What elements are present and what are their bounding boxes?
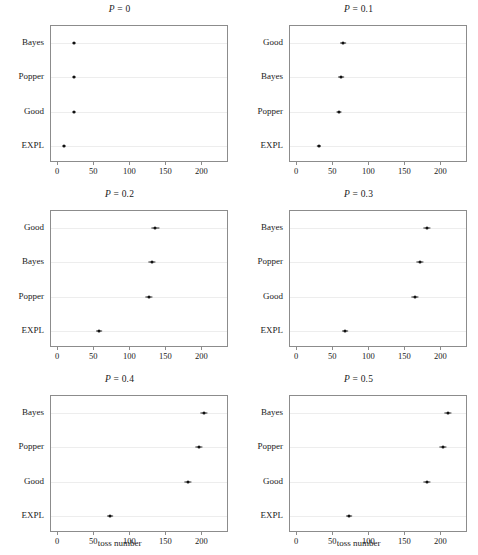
y-axis-labels: BayesPopperGoodEXPL — [239, 395, 289, 532]
y-axis-tick-label: Popper — [19, 291, 51, 301]
gridline — [51, 516, 227, 517]
gridline — [290, 43, 466, 44]
y-axis-tick-label: EXPL — [22, 325, 51, 335]
y-axis-tick-label: Popper — [19, 441, 51, 451]
x-axis-tick — [57, 347, 58, 350]
x-axis-tick — [368, 162, 369, 165]
point-marker — [425, 480, 428, 483]
y-axis-tick-label: EXPL — [261, 510, 290, 520]
panel-title-value: 0.3 — [361, 189, 373, 199]
x-axis-tick-label: 50 — [328, 166, 337, 176]
x-axis-tick — [93, 532, 94, 535]
gridline — [51, 146, 227, 147]
panel-title-equals: = — [350, 374, 361, 384]
panel-title-value: 0 — [125, 4, 130, 14]
panel-title-value: 0.2 — [122, 189, 134, 199]
point-marker — [317, 144, 320, 147]
chart-panel: P = 0.3BayesPopperGoodEXPL050100150200 — [239, 185, 478, 370]
gridline — [51, 43, 227, 44]
x-axis-tick — [57, 532, 58, 535]
x-axis-tick-label: 0 — [294, 166, 298, 176]
x-axis-tick — [165, 347, 166, 350]
point-marker — [418, 261, 421, 264]
x-axis-ticks: 050100150200 — [50, 162, 228, 186]
gridline — [290, 516, 466, 517]
x-axis-tick-label: 50 — [328, 351, 337, 361]
point-marker — [109, 514, 112, 517]
y-axis-tick-label: Popper — [258, 441, 290, 451]
x-axis-ticks: 050100150200 — [289, 347, 467, 371]
panel-title-equals: = — [350, 189, 361, 199]
plot-frame — [50, 25, 228, 162]
point-marker — [73, 42, 76, 45]
x-axis-tick-label: 50 — [89, 166, 98, 176]
chart-panel: P = 0.4BayesPopperGoodEXPL050100150200to… — [0, 370, 239, 555]
point-marker — [186, 480, 189, 483]
point-marker — [62, 144, 65, 147]
x-axis-tick — [57, 162, 58, 165]
gridline — [290, 112, 466, 113]
gridline — [290, 77, 466, 78]
x-axis-tick — [93, 347, 94, 350]
x-axis-tick — [201, 162, 202, 165]
y-axis-tick-label: Bayes — [22, 256, 50, 266]
x-axis-tick-label: 200 — [434, 166, 447, 176]
point-marker — [441, 446, 444, 449]
y-axis-tick-label: Popper — [258, 106, 290, 116]
x-axis-tick — [440, 532, 441, 535]
gridline — [290, 228, 466, 229]
plot-frame — [50, 395, 228, 532]
x-axis-title: toss number — [0, 538, 239, 548]
panel-title: P = 0.3 — [239, 189, 478, 199]
point-marker — [202, 412, 205, 415]
plot-frame — [289, 210, 467, 347]
x-axis-tick — [201, 347, 202, 350]
point-marker — [150, 261, 153, 264]
x-axis-tick-label: 150 — [159, 166, 172, 176]
x-axis-tick-label: 100 — [123, 351, 136, 361]
panel-title: P = 0.2 — [0, 189, 239, 199]
x-axis-tick-label: 100 — [362, 351, 375, 361]
x-axis-tick — [129, 347, 130, 350]
panel-title: P = 0.1 — [239, 4, 478, 14]
x-axis-tick-label: 50 — [89, 351, 98, 361]
y-axis-labels: BayesPopperGoodEXPL — [0, 25, 50, 162]
y-axis-tick-label: Bayes — [261, 222, 289, 232]
x-axis-tick — [296, 162, 297, 165]
y-axis-tick-label: Good — [24, 106, 50, 116]
x-axis-tick — [332, 532, 333, 535]
panel-title-equals: = — [350, 4, 361, 14]
y-axis-labels: GoodBayesPopperEXPL — [0, 210, 50, 347]
x-axis-tick — [368, 347, 369, 350]
x-axis-tick-label: 200 — [434, 351, 447, 361]
point-marker — [197, 446, 200, 449]
y-axis-labels: GoodBayesPopperEXPL — [239, 25, 289, 162]
y-axis-tick-label: Popper — [258, 256, 290, 266]
y-axis-tick-label: EXPL — [22, 510, 51, 520]
x-axis-tick-label: 0 — [55, 351, 59, 361]
x-axis-tick-label: 150 — [398, 166, 411, 176]
y-axis-tick-label: Good — [263, 476, 289, 486]
point-marker — [343, 329, 346, 332]
x-axis-tick — [296, 347, 297, 350]
panel-title-value: 0.1 — [361, 4, 373, 14]
chart-panel: P = 0.5BayesPopperGoodEXPL050100150200to… — [239, 370, 478, 555]
x-axis-tick — [129, 532, 130, 535]
point-marker — [73, 76, 76, 79]
x-axis-title: toss number — [239, 538, 478, 548]
x-axis-tick-label: 200 — [195, 166, 208, 176]
y-axis-tick-label: EXPL — [22, 140, 51, 150]
point-marker — [340, 76, 343, 79]
panel-title: P = 0.5 — [239, 374, 478, 384]
gridline — [290, 262, 466, 263]
gridline — [51, 112, 227, 113]
x-axis-tick — [440, 162, 441, 165]
y-axis-tick-label: Good — [263, 291, 289, 301]
x-axis-tick — [296, 532, 297, 535]
x-axis-tick-label: 200 — [195, 351, 208, 361]
x-axis-tick-label: 150 — [159, 351, 172, 361]
x-axis-tick-label: 0 — [55, 166, 59, 176]
panel-title-value: 0.5 — [361, 374, 373, 384]
gridline — [51, 228, 227, 229]
point-marker — [342, 42, 345, 45]
